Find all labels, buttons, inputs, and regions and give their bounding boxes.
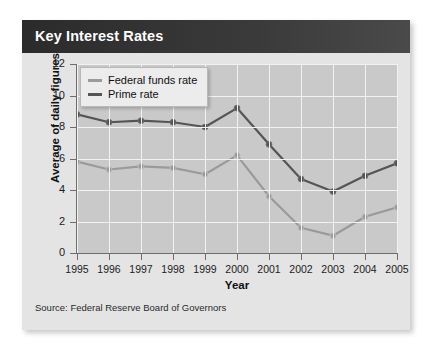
legend-label: Prime rate — [108, 88, 159, 100]
vertical-gridline — [77, 64, 78, 253]
y-axis-tick-label: 6 — [43, 152, 65, 164]
x-axis-tick-label: 2003 — [316, 263, 350, 275]
x-axis-tick-label: 1997 — [124, 263, 158, 275]
x-axis-tick-label: 1995 — [60, 263, 94, 275]
x-axis-tick — [269, 254, 270, 260]
x-axis-tick — [301, 254, 302, 260]
vertical-gridline — [237, 64, 238, 253]
x-axis-tick — [365, 254, 366, 260]
x-axis-tick — [173, 254, 174, 260]
y-axis-tick — [70, 64, 77, 65]
legend-label: Federal funds rate — [108, 74, 197, 86]
x-axis-tick-label: 2002 — [284, 263, 318, 275]
x-axis-tick — [141, 254, 142, 260]
legend-item-prime-rate: Prime rate — [88, 87, 197, 101]
y-axis-tick — [70, 222, 77, 223]
chart-legend: Federal funds rate Prime rate — [80, 67, 208, 107]
y-axis-tick-label: 4 — [43, 183, 65, 195]
x-axis-tick — [77, 254, 78, 260]
x-axis-tick-label: 2000 — [220, 263, 254, 275]
legend-swatch-icon — [88, 79, 102, 82]
y-axis-tick — [70, 159, 77, 160]
legend-swatch-icon — [88, 93, 102, 96]
y-axis-tick-label: 10 — [43, 89, 65, 101]
y-axis-tick-label: 2 — [43, 215, 65, 227]
x-axis-tick — [397, 254, 398, 260]
y-axis-tick — [70, 127, 77, 128]
x-axis-tick — [333, 254, 334, 260]
y-axis-tick-label: 12 — [43, 57, 65, 69]
x-axis-tick-label: 2004 — [348, 263, 382, 275]
x-axis-tick — [205, 254, 206, 260]
y-axis-tick-label: 0 — [43, 246, 65, 258]
x-axis-tick — [109, 254, 110, 260]
source-note: Source: Federal Reserve Board of Governo… — [35, 302, 226, 313]
vertical-gridline — [365, 64, 366, 253]
x-axis-label: Year — [77, 279, 397, 291]
x-axis-tick-label: 2005 — [380, 263, 414, 275]
chart-title-bar: Key Interest Rates — [22, 20, 410, 53]
y-axis-tick — [70, 96, 77, 97]
vertical-gridline — [333, 64, 334, 253]
x-axis-tick-label: 1999 — [188, 263, 222, 275]
y-axis-tick — [70, 190, 77, 191]
x-axis-tick-label: 2001 — [252, 263, 286, 275]
x-axis-tick — [237, 254, 238, 260]
x-axis-tick-label: 1996 — [92, 263, 126, 275]
vertical-gridline — [397, 64, 398, 253]
chart-title: Key Interest Rates — [35, 28, 163, 44]
vertical-gridline — [269, 64, 270, 253]
y-axis-tick-label: 8 — [43, 120, 65, 132]
chart-card: Key Interest Rates Average of daily figu… — [22, 20, 410, 330]
vertical-gridline — [301, 64, 302, 253]
y-axis-tick — [70, 253, 77, 254]
x-axis-tick-label: 1998 — [156, 263, 190, 275]
legend-item-federal-funds-rate: Federal funds rate — [88, 73, 197, 87]
